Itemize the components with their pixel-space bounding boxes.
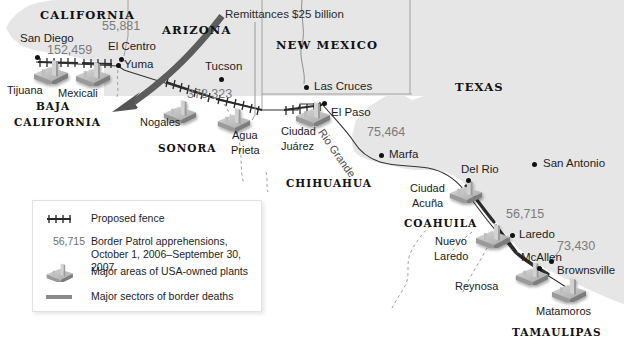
apprehensions-san-diego: 152,459 — [47, 44, 92, 57]
legend-row-proposed-fence: Proposed fence — [33, 212, 165, 225]
city-label-reynosa: Reynosa — [455, 281, 498, 292]
city-dot-yuma — [116, 63, 121, 68]
state-label-baja-california: CALIFORNIA — [14, 117, 101, 128]
city-label-las-cruces: Las Cruces — [314, 81, 372, 93]
map-legend: Proposed fence 56,715 Border Patrol appr… — [32, 200, 262, 312]
legend-label-border-deaths: Major sectors of border deaths — [85, 290, 233, 303]
legend-row-usa-owned-plants: Major areas of USA-owned plants — [33, 265, 248, 278]
city-label-del-rio: Del Rio — [461, 164, 499, 176]
city-label-brownsville: Brownsville — [557, 265, 615, 277]
city-label-marfa: Marfa — [389, 149, 418, 161]
state-label-texas: TEXAS — [455, 82, 504, 94]
legend-label-usa-owned-plants: Major areas of USA-owned plants — [85, 265, 248, 278]
city-dot-brownsville — [549, 259, 554, 264]
factory-icon-tijuana — [34, 60, 68, 86]
city-label-laredo: Laredo — [519, 229, 555, 241]
city-dot-mcallen — [537, 266, 542, 271]
city-label-matamoros: Matamoros — [536, 306, 591, 317]
legend-row-border-deaths: Major sectors of border deaths — [33, 290, 233, 303]
state-label-chihuahua: CHIHUAHUA — [286, 178, 372, 189]
apprehensions-tucson: 378,323 — [187, 88, 232, 101]
remittances-annotation: Remittances $25 billion — [225, 9, 344, 21]
state-label-coahuila: COAHUILA — [404, 218, 477, 229]
city-label-nogales: Nogales — [140, 117, 180, 128]
legend-number-sample: 56,715 — [33, 235, 85, 248]
city-label-san-antonio: San Antonio — [543, 158, 605, 170]
city-label-tucson: Tucson — [205, 61, 242, 73]
city-label-ciudad-juarez-line2: Juárez — [281, 141, 314, 152]
city-dot-tucson — [219, 77, 224, 82]
city-label-nuevo-laredo-line1: Nuevo — [435, 236, 467, 247]
state-label-arizona: ARIZONA — [162, 25, 231, 37]
apprehensions-laredo: 56,715 — [506, 208, 544, 221]
city-label-mcallen: McAllen — [521, 252, 562, 264]
state-label-baja: BAJA — [36, 101, 70, 112]
city-dot-san-antonio — [532, 162, 537, 167]
city-label-yuma: Yuma — [124, 59, 153, 71]
city-label-ciudad-acuna-line1: Ciudad — [410, 183, 445, 194]
thick-line-symbol-icon — [33, 290, 85, 303]
legend-label-proposed-fence: Proposed fence — [85, 212, 165, 225]
city-dot-del-rio — [466, 178, 471, 183]
state-label-sonora: SONORA — [158, 143, 216, 154]
border-map: CALIFORNIA ARIZONA NEW MEXICO TEXAS BAJA… — [0, 0, 624, 342]
fence-symbol-icon — [33, 212, 85, 225]
legend-label-apprehensions-line1: Border Patrol apprehensions, — [91, 235, 261, 248]
factory-symbol-icon — [33, 265, 85, 278]
state-label-tamaulipas: TAMAULIPAS — [512, 327, 601, 338]
city-label-agua-prieta-line1: Agua — [232, 130, 258, 141]
city-label-ciudad-acuna-line2: Acuña — [412, 198, 443, 209]
apprehensions-rio-grande-valley: 73,430 — [557, 240, 595, 253]
state-label-new-mexico: NEW MEXICO — [276, 40, 378, 52]
city-label-mexicali: Mexicali — [58, 88, 98, 99]
city-dot-san-diego — [35, 55, 40, 60]
city-label-agua-prieta-line2: Prieta — [231, 145, 260, 156]
apprehensions-el-paso: 75,464 — [367, 126, 405, 139]
apprehensions-el-centro: 55,881 — [102, 20, 140, 33]
city-label-el-centro: El Centro — [108, 41, 156, 53]
city-dot-marfa — [379, 153, 384, 158]
city-dot-laredo — [510, 233, 515, 238]
city-label-tijuana: Tijuana — [7, 85, 43, 96]
city-dot-las-cruces — [304, 85, 309, 90]
city-dot-el-paso — [322, 101, 327, 106]
city-label-ciudad-juarez-line1: Ciudad — [281, 126, 316, 137]
city-label-nuevo-laredo-line2: Laredo — [434, 251, 468, 262]
city-label-el-paso: El Paso — [331, 107, 371, 119]
